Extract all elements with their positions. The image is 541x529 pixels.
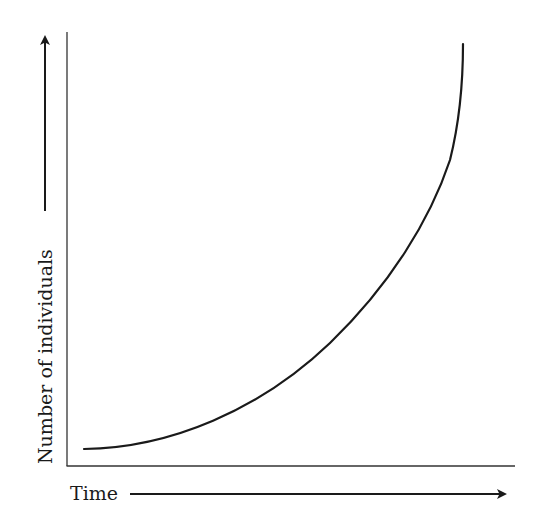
- growth-curve: [84, 44, 463, 449]
- x-axis-label: Time: [70, 482, 118, 504]
- y-axis-label: Number of individuals: [34, 249, 56, 464]
- exponential-growth-chart: Number of individuals Time: [0, 0, 541, 529]
